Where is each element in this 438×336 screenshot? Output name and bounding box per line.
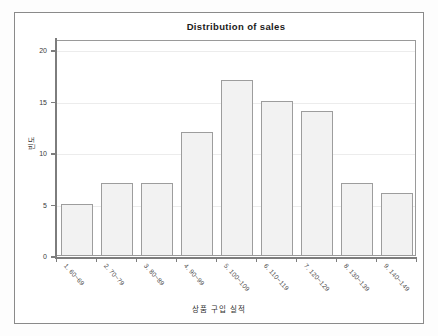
y-tick-15: [51, 102, 56, 104]
x-tick-label-4: 4. 90~99: [183, 262, 206, 287]
y-tick-label-10: 10: [39, 150, 47, 157]
x-axis: [55, 257, 417, 259]
y-axis: 05101520: [55, 38, 57, 258]
y-tick-10: [51, 153, 56, 155]
x-tick-label-1: 1. 60~69: [63, 262, 86, 287]
x-axis-title: 상품 구입 실적: [0, 303, 438, 314]
chart-title-band: Distribution of sales: [56, 18, 416, 35]
chart-title: Distribution of sales: [187, 21, 286, 32]
bar-1: [61, 204, 93, 255]
x-tick-label-5: 5. 100~109: [223, 262, 251, 292]
y-tick-label-20: 20: [39, 47, 47, 54]
y-tick-label-0: 0: [43, 253, 47, 260]
x-tick-label-2: 2. 70~79: [103, 262, 126, 287]
x-tick-label-7: 7. 120~129: [303, 262, 331, 292]
bar-4: [181, 132, 213, 255]
bar-2: [101, 183, 133, 255]
bar-7: [301, 111, 333, 255]
x-tick-labels: 1. 60~692. 70~793. 80~894. 90~995. 100~1…: [0, 262, 438, 308]
bar-6: [261, 101, 293, 255]
bar-3: [141, 183, 173, 255]
y-tick-20: [51, 50, 56, 52]
chart-image: Distribution of sales 05101520 1. 60~692…: [0, 0, 438, 336]
x-tick-label-6: 6. 110~119: [263, 262, 291, 292]
x-tick-label-3: 3. 80~89: [143, 262, 166, 287]
plot-area: [56, 40, 416, 256]
y-axis-title: 빈도: [26, 137, 36, 150]
x-tick-label-9: 9. 140~149: [383, 262, 411, 292]
bars-layer: [57, 41, 415, 255]
bar-8: [341, 183, 373, 255]
bar-5: [221, 80, 253, 255]
bar-9: [381, 193, 413, 255]
y-tick-label-5: 5: [43, 201, 47, 208]
x-tick-label-8: 8. 130~139: [343, 262, 371, 292]
y-tick-label-15: 15: [39, 98, 47, 105]
y-tick-5: [51, 205, 56, 207]
